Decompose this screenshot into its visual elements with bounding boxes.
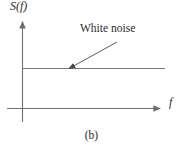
x-axis-label-text: f <box>169 95 172 109</box>
figure-caption: (b) <box>0 130 183 142</box>
y-axis-label: S(f) <box>10 0 27 12</box>
x-axis-label: f <box>169 96 172 108</box>
figure-caption-text: (b) <box>85 129 98 141</box>
annotation-label-text: White noise <box>80 22 135 34</box>
y-axis-label-text: S(f) <box>10 0 27 13</box>
annotation-arrow <box>69 42 117 69</box>
figure-white-noise-psd: S(f) f White noise (b) <box>0 0 183 152</box>
annotation-label: White noise <box>80 23 135 35</box>
